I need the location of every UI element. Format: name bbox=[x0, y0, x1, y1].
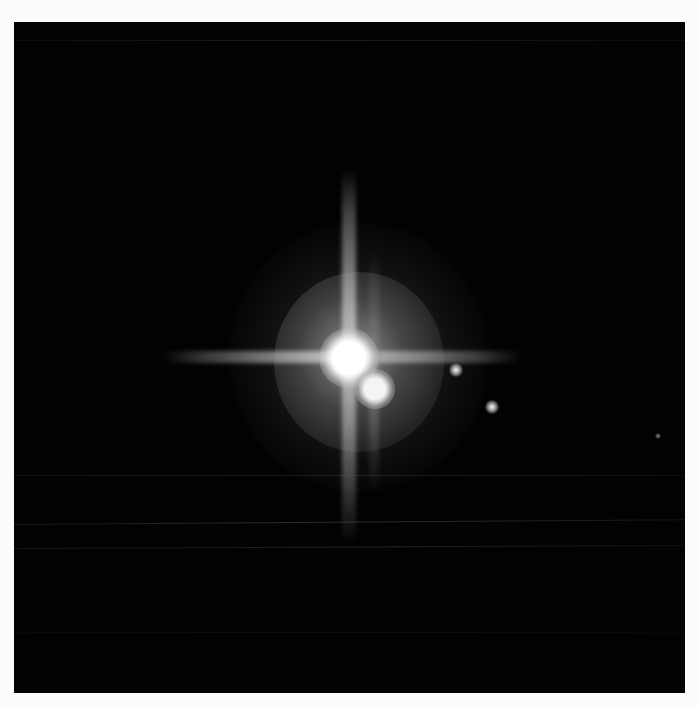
scan-line bbox=[14, 475, 685, 476]
primary-body bbox=[332, 341, 366, 375]
moon-b bbox=[485, 400, 499, 414]
faint-star bbox=[655, 433, 661, 439]
halo-glow bbox=[229, 222, 489, 492]
vertical-diffraction-spike bbox=[342, 168, 356, 544]
horizontal-diffraction-spike bbox=[162, 351, 522, 363]
primary-body-glow bbox=[319, 328, 379, 388]
astronomical-image bbox=[14, 22, 685, 693]
secondary-diffraction-spike bbox=[369, 252, 379, 492]
scan-line bbox=[14, 545, 685, 549]
scan-line bbox=[14, 519, 685, 525]
secondary-body bbox=[364, 378, 386, 400]
inner-halo-glow bbox=[274, 272, 444, 452]
scan-line bbox=[14, 632, 685, 633]
scan-line bbox=[14, 40, 685, 41]
secondary-body-glow bbox=[355, 369, 395, 409]
moon-a bbox=[449, 363, 463, 377]
